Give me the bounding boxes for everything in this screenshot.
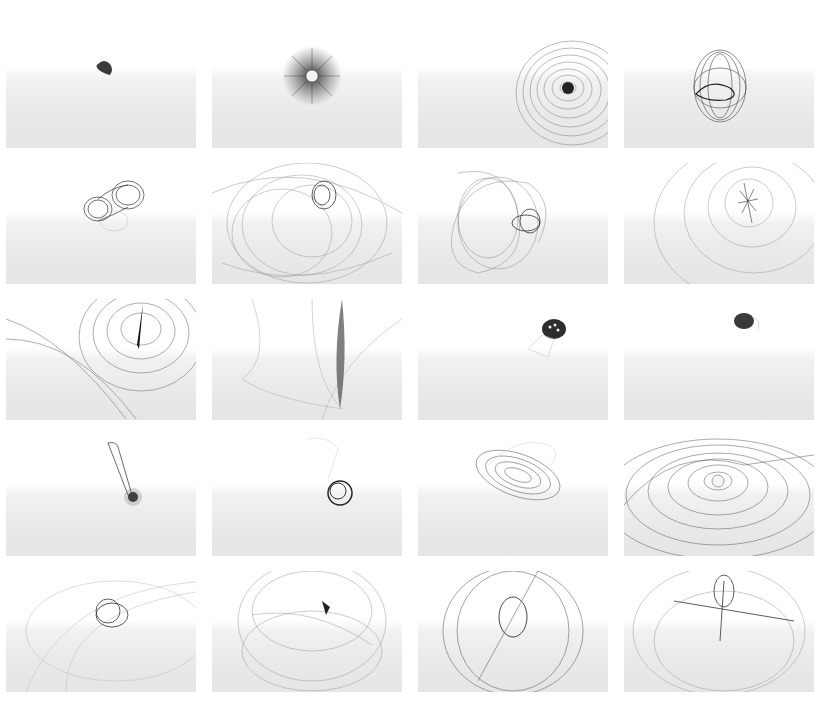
rings-spike-drawing (6, 299, 196, 420)
panel-18 (212, 571, 402, 692)
panel-9 (6, 299, 196, 420)
panel-4 (624, 12, 814, 148)
panel-19 (418, 571, 608, 692)
ellipse-cage-drawing (418, 571, 608, 692)
panel-2 (212, 12, 402, 148)
capsule-drawing (624, 299, 814, 420)
coil-loops-drawing (6, 571, 196, 692)
panel-14 (212, 435, 402, 556)
loop-scribble-drawing (212, 163, 402, 284)
tangle-drawing (418, 163, 608, 284)
tilted-disc-drawing (418, 435, 608, 556)
figure-caption (6, 713, 813, 720)
panel-1 (6, 12, 196, 148)
egg-mesh-drawing (624, 12, 814, 148)
panel-10 (212, 299, 402, 420)
stalk-drawing (6, 435, 196, 556)
panel-16 (624, 435, 814, 556)
panel-12 (624, 299, 814, 420)
panel-3 (418, 12, 608, 148)
spiral-rings-drawing (418, 12, 608, 148)
panel-5 (6, 163, 196, 284)
panel-13 (6, 435, 196, 556)
vertical-streak-drawing (212, 299, 402, 420)
loop-sphere-drawing (212, 571, 402, 692)
starburst-drawing (212, 12, 402, 148)
image-grid (6, 12, 813, 692)
blob-drawing (6, 12, 196, 148)
panel-15 (418, 435, 608, 556)
panel-11 (418, 299, 608, 420)
panel-20 (624, 571, 814, 692)
arcs-cluster-drawing (624, 163, 814, 284)
wavy-sheet-drawing (624, 435, 814, 556)
twin-coil-drawing (6, 163, 196, 284)
panel-8 (624, 163, 814, 284)
panel-6 (212, 163, 402, 284)
knot-cone-drawing (212, 435, 402, 556)
panel-7 (418, 163, 608, 284)
bowl-drawing (418, 299, 608, 420)
cross-mesh-drawing (624, 571, 814, 692)
panel-17 (6, 571, 196, 692)
